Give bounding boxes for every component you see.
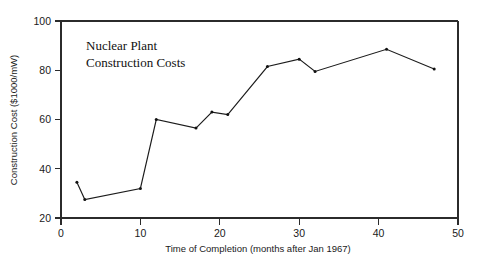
data-point xyxy=(210,111,213,114)
x-axis-title: Time of Completion (months after Jan 196… xyxy=(165,243,351,254)
y-tick-label: 80 xyxy=(39,64,51,76)
plot-title-line-2: Construction Costs xyxy=(86,55,185,70)
y-tick-label: 20 xyxy=(39,212,51,224)
data-point xyxy=(226,113,229,116)
data-point xyxy=(385,48,388,51)
y-tick-label: 100 xyxy=(33,15,51,27)
y-tick-label: 40 xyxy=(39,163,51,175)
data-point xyxy=(75,181,78,184)
data-point xyxy=(83,198,86,201)
nuclear-plant-cost-line-chart: 20 40 60 80 100 0 10 20 30 40 50 Time of… xyxy=(0,0,483,259)
y-tick-label: 60 xyxy=(39,113,51,125)
figure-container: 20 40 60 80 100 0 10 20 30 40 50 Time of… xyxy=(0,0,483,259)
x-tick-label: 10 xyxy=(135,227,147,239)
data-point xyxy=(433,68,436,71)
x-tick-label: 50 xyxy=(452,227,464,239)
x-tick-label: 40 xyxy=(373,227,385,239)
data-point xyxy=(155,118,158,121)
data-point xyxy=(266,65,269,68)
x-tick-label: 30 xyxy=(293,227,305,239)
plot-title-line-1: Nuclear Plant xyxy=(86,38,158,53)
data-point xyxy=(194,127,197,130)
data-point xyxy=(314,70,317,73)
x-tick-label: 0 xyxy=(58,227,64,239)
y-axis-title: Construction Cost ($1000/mW) xyxy=(8,55,19,185)
data-point xyxy=(298,58,301,61)
figure-background xyxy=(0,0,483,259)
data-point xyxy=(139,187,142,190)
x-tick-label: 20 xyxy=(214,227,226,239)
